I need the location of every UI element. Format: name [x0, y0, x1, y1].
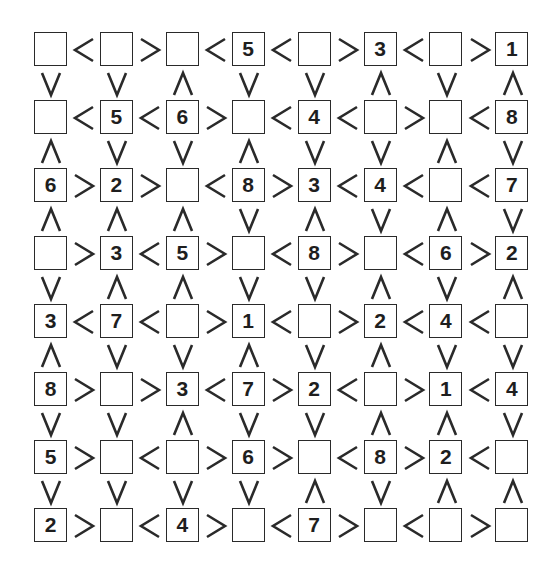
empty-cell[interactable] [100, 440, 133, 474]
less-than-icon [269, 35, 295, 65]
greater-than-icon [203, 103, 229, 133]
less-than-icon [401, 239, 427, 269]
empty-cell[interactable] [429, 100, 462, 134]
less-than-icon [71, 307, 97, 337]
given-cell: 8 [495, 100, 528, 134]
less-than-icon [137, 103, 163, 133]
chevron-up-icon [434, 205, 460, 235]
chevron-up-icon [368, 341, 394, 371]
greater-than-icon [269, 443, 295, 473]
empty-cell[interactable] [34, 32, 67, 66]
empty-cell[interactable] [495, 304, 528, 338]
empty-cell[interactable] [364, 236, 397, 270]
empty-cell[interactable] [100, 508, 133, 542]
empty-cell[interactable] [429, 168, 462, 202]
given-cell: 2 [429, 440, 462, 474]
given-cell: 6 [166, 100, 199, 134]
empty-cell[interactable] [34, 236, 67, 270]
greater-than-icon [335, 307, 361, 337]
greater-than-icon [71, 375, 97, 405]
chevron-up-icon [104, 273, 130, 303]
greater-than-icon [71, 511, 97, 541]
given-cell: 7 [232, 372, 265, 406]
greater-than-icon [269, 375, 295, 405]
empty-cell[interactable] [298, 440, 331, 474]
empty-cell[interactable] [364, 100, 397, 134]
greater-than-icon [335, 511, 361, 541]
less-than-icon [71, 35, 97, 65]
chevron-down-icon [104, 69, 130, 99]
given-cell: 4 [364, 168, 397, 202]
empty-cell[interactable] [100, 372, 133, 406]
chevron-down-icon [104, 409, 130, 439]
less-than-icon [401, 511, 427, 541]
chevron-down-icon [500, 341, 526, 371]
chevron-down-icon [170, 477, 196, 507]
given-cell: 5 [34, 440, 67, 474]
less-than-icon [467, 103, 493, 133]
chevron-down-icon [500, 137, 526, 167]
less-than-icon [335, 375, 361, 405]
given-cell: 8 [364, 440, 397, 474]
greater-than-icon [203, 511, 229, 541]
chevron-down-icon [368, 477, 394, 507]
empty-cell[interactable] [495, 440, 528, 474]
given-cell: 2 [495, 236, 528, 270]
empty-cell[interactable] [495, 508, 528, 542]
empty-cell[interactable] [232, 100, 265, 134]
empty-cell[interactable] [429, 32, 462, 66]
given-cell: 2 [100, 168, 133, 202]
given-cell: 8 [34, 372, 67, 406]
chevron-down-icon [434, 273, 460, 303]
chevron-up-icon [302, 477, 328, 507]
given-cell: 8 [298, 236, 331, 270]
empty-cell[interactable] [166, 32, 199, 66]
greater-than-icon [71, 171, 97, 201]
empty-cell[interactable] [232, 508, 265, 542]
less-than-icon [467, 443, 493, 473]
less-than-icon [335, 443, 361, 473]
greater-than-icon [467, 35, 493, 65]
chevron-up-icon [434, 137, 460, 167]
less-than-icon [71, 103, 97, 133]
empty-cell[interactable] [34, 100, 67, 134]
less-than-icon [269, 239, 295, 269]
chevron-up-icon [236, 137, 262, 167]
empty-cell[interactable] [166, 304, 199, 338]
chevron-up-icon [170, 273, 196, 303]
empty-cell[interactable] [429, 508, 462, 542]
less-than-icon [467, 307, 493, 337]
chevron-down-icon [104, 477, 130, 507]
empty-cell[interactable] [364, 508, 397, 542]
given-cell: 7 [298, 508, 331, 542]
greater-than-icon [71, 443, 97, 473]
less-than-icon [137, 443, 163, 473]
less-than-icon [335, 171, 361, 201]
less-than-icon [203, 171, 229, 201]
empty-cell[interactable] [100, 32, 133, 66]
chevron-up-icon [170, 205, 196, 235]
chevron-down-icon [368, 205, 394, 235]
given-cell: 6 [34, 168, 67, 202]
empty-cell[interactable] [232, 236, 265, 270]
futoshiki-board: 531564862834735862371248372145682247 [0, 0, 558, 567]
greater-than-icon [401, 375, 427, 405]
given-cell: 8 [232, 168, 265, 202]
given-cell: 5 [100, 100, 133, 134]
empty-cell[interactable] [166, 440, 199, 474]
chevron-up-icon [170, 69, 196, 99]
empty-cell[interactable] [298, 304, 331, 338]
less-than-icon [269, 307, 295, 337]
less-than-icon [137, 239, 163, 269]
given-cell: 3 [100, 236, 133, 270]
chevron-down-icon [368, 137, 394, 167]
greater-than-icon [269, 171, 295, 201]
empty-cell[interactable] [166, 168, 199, 202]
chevron-up-icon [368, 69, 394, 99]
given-cell: 4 [166, 508, 199, 542]
empty-cell[interactable] [364, 372, 397, 406]
given-cell: 3 [364, 32, 397, 66]
greater-than-icon [335, 239, 361, 269]
chevron-down-icon [302, 409, 328, 439]
empty-cell[interactable] [298, 32, 331, 66]
